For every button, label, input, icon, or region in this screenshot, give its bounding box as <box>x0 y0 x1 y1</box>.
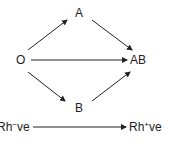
node-o: O <box>16 54 25 66</box>
arrow-b-to-ab <box>92 72 130 101</box>
arrow-o-to-a <box>28 20 67 50</box>
node-a: A <box>75 7 83 19</box>
rh-neg-base: Rh <box>0 120 12 134</box>
rh-neg-suffix: ve <box>17 120 30 134</box>
arrow-a-to-ab <box>92 20 132 50</box>
label-rh-positive: Rh+ve <box>129 121 162 133</box>
node-b: B <box>75 102 83 114</box>
rh-pos-base: Rh <box>129 120 144 134</box>
node-ab: AB <box>130 54 146 66</box>
rh-pos-suffix: ve <box>149 120 162 134</box>
arrow-o-to-b <box>28 72 65 101</box>
label-rh-negative: Rh−ve <box>0 121 30 133</box>
